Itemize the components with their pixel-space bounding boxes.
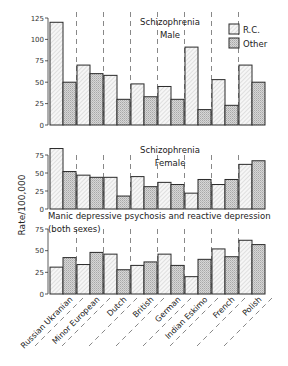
y-tick-label: 50 [35,170,44,178]
panel-2: 0255075SchizophreniaFemale [35,145,265,214]
panel-title: (both sexes) [48,224,101,234]
bar-other [144,262,157,294]
y-tick-label: 125 [31,15,44,23]
y-axis-label: Rate/100,000 [17,174,27,235]
bar-rc [185,193,198,209]
bar-rc [158,254,171,294]
bar-other [171,265,184,294]
bar-other [252,245,265,294]
legend: R.C.Other [229,24,268,49]
bar-rc [104,75,117,125]
bar-other [63,258,76,294]
bar-rc [185,277,198,294]
bar-other [225,257,238,294]
y-tick-label: 25 [35,100,44,108]
bar-rc [50,149,63,209]
bar-other [90,252,103,294]
bar-other [90,177,103,209]
bar-rc [239,240,252,294]
y-tick-label: 0 [40,291,44,299]
bar-other [117,270,130,294]
y-tick-label: 25 [35,269,44,277]
bar-other [144,97,157,125]
bar-other [144,187,157,209]
panel-title: Male [160,30,180,40]
legend-label: Other [243,39,268,49]
category-label: Dutch [105,295,128,318]
bar-rc [104,254,117,294]
y-tick-label: 75 [35,152,44,160]
category-label: French [211,295,236,320]
bar-rc [185,47,198,125]
panel-title: Female [155,158,186,168]
bar-rc [104,177,117,209]
bar-rc [239,65,252,125]
y-tick-label: 50 [35,79,44,87]
bar-other [90,74,103,125]
legend-swatch [229,24,239,34]
bar-other [198,259,211,294]
bar-other [63,82,76,125]
bar-rc [158,182,171,209]
y-tick-label: 0 [40,122,44,130]
bar-rc [77,65,90,125]
panel-title: Schizophrenia [140,145,200,155]
bar-other [198,110,211,125]
bar-other [252,161,265,209]
category-label: British [131,295,155,319]
bar-other [252,82,265,125]
bar-rc [131,265,144,294]
bar-rc [212,185,225,209]
y-tick-label: 0 [40,206,44,214]
bar-rc [50,22,63,125]
bar-other [171,185,184,209]
bar-rc [131,177,144,209]
panel-title: Schizophrenia [140,17,200,27]
chart-figure: 0255075100125SchizophreniaMale0255075Sch… [0,0,288,366]
bar-other [198,179,211,209]
panel-3: 0255075Manic depressive psychosis and re… [35,211,271,299]
bar-rc [50,267,63,294]
bar-rc [239,164,252,209]
category-label: Minor European [50,295,101,346]
legend-swatch [229,38,239,48]
bar-other [117,196,130,209]
bar-rc [131,84,144,125]
bar-other [171,99,184,125]
bar-other [63,172,76,209]
y-tick-label: 75 [35,226,44,234]
bar-other [225,105,238,125]
bar-other [225,179,238,209]
bar-rc [77,175,90,209]
y-tick-label: 50 [35,247,44,255]
panel-title: Manic depressive psychosis and reactive … [48,211,271,221]
bar-rc [158,86,171,125]
bar-rc [212,80,225,125]
bar-rc [77,265,90,294]
legend-label: R.C. [243,25,260,35]
y-tick-label: 75 [35,57,44,65]
y-tick-label: 25 [35,188,44,196]
y-tick-label: 100 [31,36,44,44]
bar-other [117,99,130,125]
bar-rc [212,249,225,294]
